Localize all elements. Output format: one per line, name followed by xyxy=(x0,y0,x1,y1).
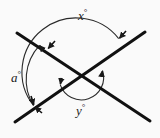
geometry-figure: x° a° y° xyxy=(0,0,160,138)
arrowhead-arc-y-outer-left xyxy=(35,107,42,113)
arrowhead-arc-x-left xyxy=(48,41,55,49)
arrowhead-arc-x-right xyxy=(120,31,127,38)
degree-symbol-x: ° xyxy=(84,7,88,17)
arrowhead-arc-y-left xyxy=(60,78,61,84)
angle-label-a: a° xyxy=(11,70,21,84)
angle-label-y: y° xyxy=(76,103,85,117)
angle-label-x: x° xyxy=(78,8,87,22)
arrowhead-arc-y-right xyxy=(102,71,103,77)
degree-symbol-y: ° xyxy=(82,102,86,112)
degree-symbol-a: ° xyxy=(18,69,22,79)
